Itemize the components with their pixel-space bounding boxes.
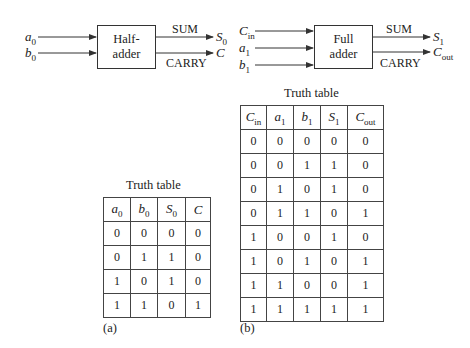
table-row: 0000 bbox=[104, 222, 211, 246]
cell: 0 bbox=[294, 226, 321, 250]
cell: 0 bbox=[241, 202, 267, 226]
cell: 1 bbox=[241, 250, 267, 274]
header-cout: Cout bbox=[348, 106, 384, 130]
cell: 0 bbox=[104, 222, 131, 246]
cell: 0 bbox=[186, 246, 211, 270]
table-row: 11111 bbox=[241, 298, 384, 322]
table-header-row: a0 b0 S0 C bbox=[104, 198, 211, 222]
cell: 1 bbox=[186, 294, 211, 318]
output-cout-label: Cout bbox=[433, 45, 453, 62]
cell: 1 bbox=[267, 202, 294, 226]
cell: 0 bbox=[321, 202, 348, 226]
truth-table-b: Cin a1 b1 S1 Cout 00000 00110 01010 0110… bbox=[240, 105, 384, 322]
table-row: 00000 bbox=[241, 130, 384, 154]
cell: 1 bbox=[321, 154, 348, 178]
input-b0-label: b0 bbox=[25, 46, 36, 63]
cell: 0 bbox=[131, 270, 158, 294]
half-adder-carry-label: CARRY bbox=[166, 57, 207, 69]
header-b0: b0 bbox=[131, 198, 158, 222]
cell: 1 bbox=[241, 274, 267, 298]
cell: 0 bbox=[321, 130, 348, 154]
table-row: 0110 bbox=[104, 246, 211, 270]
cell: 1 bbox=[294, 250, 321, 274]
cell: 1 bbox=[321, 226, 348, 250]
caption-a: (a) bbox=[103, 321, 117, 336]
cell: 0 bbox=[131, 222, 158, 246]
truth-table-a: a0 b0 S0 C 0000 0110 1010 1101 bbox=[103, 197, 211, 318]
cell: 1 bbox=[158, 270, 186, 294]
cell: 0 bbox=[158, 222, 186, 246]
cell: 0 bbox=[321, 274, 348, 298]
table-row: 00110 bbox=[241, 154, 384, 178]
header-c: C bbox=[186, 198, 211, 222]
cell: 1 bbox=[267, 274, 294, 298]
table-header-row: Cin a1 b1 S1 Cout bbox=[241, 106, 384, 130]
full-adder-label-line1: Full bbox=[330, 32, 358, 47]
truth-table-b-title: Truth table bbox=[284, 86, 339, 101]
cell: 1 bbox=[348, 202, 384, 226]
cell: 1 bbox=[348, 274, 384, 298]
full-adder-carry-label: CARRY bbox=[380, 57, 421, 69]
cell: 1 bbox=[104, 294, 131, 318]
header-s1: S1 bbox=[321, 106, 348, 130]
wiring-diagram bbox=[0, 0, 470, 348]
half-adder-label-line2: adder bbox=[113, 47, 141, 62]
input-b1-label: b1 bbox=[239, 58, 250, 75]
cell: 0 bbox=[186, 222, 211, 246]
cell: 0 bbox=[186, 270, 211, 294]
cell: 0 bbox=[267, 130, 294, 154]
table-row: 1010 bbox=[104, 270, 211, 294]
header-a1: a1 bbox=[267, 106, 294, 130]
cell: 0 bbox=[348, 130, 384, 154]
input-a1-label: a1 bbox=[239, 41, 250, 58]
cell: 1 bbox=[348, 250, 384, 274]
cell: 1 bbox=[158, 246, 186, 270]
cell: 1 bbox=[104, 270, 131, 294]
cell: 0 bbox=[267, 226, 294, 250]
cell: 0 bbox=[267, 154, 294, 178]
table-row: 1101 bbox=[104, 294, 211, 318]
table-row: 10010 bbox=[241, 226, 384, 250]
cell: 0 bbox=[348, 178, 384, 202]
cell: 1 bbox=[131, 294, 158, 318]
cell: 0 bbox=[348, 226, 384, 250]
input-cin-label: Cin bbox=[239, 24, 255, 41]
cell: 1 bbox=[321, 178, 348, 202]
table-row: 11001 bbox=[241, 274, 384, 298]
cell: 1 bbox=[321, 298, 348, 322]
header-cin: Cin bbox=[241, 106, 267, 130]
table-row: 10101 bbox=[241, 250, 384, 274]
truth-table-a-title: Truth table bbox=[126, 178, 181, 193]
cell: 0 bbox=[294, 274, 321, 298]
cell: 1 bbox=[348, 298, 384, 322]
cell: 0 bbox=[321, 250, 348, 274]
caption-b: (b) bbox=[240, 321, 255, 336]
half-adder-sum-label: SUM bbox=[172, 23, 198, 35]
cell: 0 bbox=[104, 246, 131, 270]
cell: 0 bbox=[241, 130, 267, 154]
table-row: 01101 bbox=[241, 202, 384, 226]
cell: 0 bbox=[267, 250, 294, 274]
full-adder-block: Fulladder bbox=[314, 25, 373, 69]
cell: 0 bbox=[241, 178, 267, 202]
cell: 1 bbox=[294, 298, 321, 322]
cell: 1 bbox=[241, 226, 267, 250]
header-a0: a0 bbox=[104, 198, 131, 222]
cell: 0 bbox=[241, 154, 267, 178]
full-adder-label-line2: adder bbox=[330, 47, 358, 62]
cell: 0 bbox=[294, 130, 321, 154]
full-adder-sum-label: SUM bbox=[386, 23, 412, 35]
cell: 0 bbox=[348, 154, 384, 178]
table-row: 01010 bbox=[241, 178, 384, 202]
output-c-label: C bbox=[216, 46, 225, 59]
cell: 0 bbox=[294, 178, 321, 202]
cell: 1 bbox=[267, 178, 294, 202]
cell: 1 bbox=[131, 246, 158, 270]
cell: 1 bbox=[294, 154, 321, 178]
header-s0: S0 bbox=[158, 198, 186, 222]
cell: 0 bbox=[158, 294, 186, 318]
half-adder-block: Half-adder bbox=[97, 25, 156, 69]
cell: 1 bbox=[294, 202, 321, 226]
cell: 1 bbox=[241, 298, 267, 322]
half-adder-label-line1: Half- bbox=[113, 32, 141, 47]
